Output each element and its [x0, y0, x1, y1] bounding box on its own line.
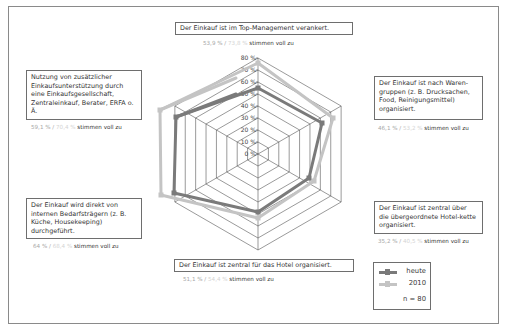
svg-text:30 %: 30 %: [241, 114, 257, 121]
axis-label-hotel-central: Der Einkauf ist zentral für das Hotel or…: [174, 259, 354, 272]
stat-today: 53,9 %: [203, 40, 223, 46]
axis-label-top-management: Der Einkauf ist im Top-Management verank…: [175, 22, 353, 35]
legend-marker-icon: [385, 281, 390, 287]
axis-label-additional-support: Nutzung von zusätzlicher Einkaufsunterst…: [26, 70, 142, 120]
sample-size: n = 80: [377, 295, 426, 305]
svg-text:0 %: 0 %: [245, 150, 257, 157]
svg-text:10 %: 10 %: [241, 138, 257, 145]
svg-text:20 %: 20 %: [241, 126, 257, 133]
axis-label-text: Der Einkauf wird direkt von internen Bed…: [31, 201, 126, 235]
axis-stat-upper-right: 46,1 % / 53,2 % stimmen voll zu: [378, 125, 469, 131]
svg-text:80 %: 80 %: [241, 54, 257, 61]
axis-label-text: Nutzung von zusätzlicher Einkaufsunterst…: [31, 73, 134, 115]
svg-text:40 %: 40 %: [241, 102, 257, 109]
axis-label-text: Der Einkauf ist zentral über die übergeo…: [379, 204, 476, 229]
legend-marker-icon: [385, 269, 390, 275]
chart-legend: heute 2010 n = 80: [373, 262, 431, 310]
axis-label-text: Der Einkauf ist im Top-Management verank…: [180, 24, 329, 32]
axis-stat-bottom: 51,1 % / 54,4 % stimmen voll zu: [183, 276, 274, 282]
axis-label-text: Der Einkauf ist zentral für das Hotel or…: [179, 261, 332, 269]
axis-stat-upper-left: 59,1 % / 70,4 % stimmen voll zu: [31, 124, 122, 130]
axis-label-text: Der Einkauf ist nach Waren-gruppen (z. B…: [379, 79, 470, 113]
axis-label-hotel-chain: Der Einkauf ist zentral über die übergeo…: [374, 201, 483, 234]
axis-stat-lower-left: 64 % / 68,4 % stimmen voll zu: [33, 243, 118, 249]
legend-item-2010: 2010: [377, 279, 426, 289]
svg-text:60 %: 60 %: [241, 78, 257, 85]
axis-stat-lower-right: 35,2 % / 40,5 % stimmen voll zu: [378, 238, 469, 244]
axis-label-internal-requesters: Der Einkauf wird direkt von internen Bed…: [26, 198, 142, 239]
legend-item-heute: heute: [377, 267, 426, 277]
stat-suffix: stimmen voll zu: [249, 40, 293, 46]
axis-stat-top: 53,9 % / 73,8 % stimmen voll zu: [203, 40, 294, 46]
axis-label-product-groups: Der Einkauf ist nach Waren-gruppen (z. B…: [374, 76, 483, 120]
stat-2010: 73,8 %: [228, 40, 248, 46]
